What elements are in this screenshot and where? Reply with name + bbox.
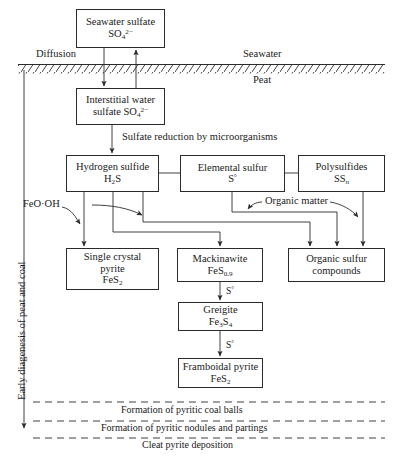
box-elemental-sulfur: Elemental sulfur S° (180, 155, 285, 192)
box-polysulfides-formula: SSn (334, 173, 349, 186)
box-mackinawite: Mackinawite FeS0.9 (177, 248, 263, 282)
arrow-organic-matter-right (330, 202, 358, 217)
box-elemental-sulfur-formula: S° (228, 173, 237, 185)
box-framboidal-pyrite: Framboidal pyrite FeS2 (178, 358, 263, 388)
box-interstitial-sulfate-line1: Interstitial water (86, 94, 155, 106)
label-sulfate-reduction: Sulfate reduction by microorganisms (122, 131, 277, 142)
box-seawater-sulfate: Seawater sulfate SO42− (76, 9, 165, 48)
label-sulfur-step-mackinawite: S° (226, 285, 234, 296)
arrow-h2s-to-mackinawite (113, 192, 220, 246)
box-hydrogen-sulfide-line1: Hydrogen sulfide (76, 161, 149, 173)
label-coal-balls: Formation of pyritic coal balls (118, 404, 246, 415)
box-single-crystal-pyrite: Single crystal pyrite FeS2 (66, 248, 159, 290)
box-hydrogen-sulfide: Hydrogen sulfide H2S (66, 155, 159, 192)
arrow-feooh-to-mackinawite-path (92, 205, 142, 215)
connector-layer (0, 0, 397, 457)
box-single-crystal-pyrite-line2: pyrite (100, 263, 125, 275)
box-framboidal-pyrite-formula: FeS2 (211, 373, 231, 386)
box-mackinawite-formula: FeS0.9 (207, 265, 232, 278)
label-iron-oxyhydroxide: FeO·OH (23, 198, 60, 209)
box-interstitial-sulfate-formula: sulfate SO42− (93, 106, 148, 119)
arrow-organic-matter-left (248, 202, 262, 209)
box-organic-sulfur-compounds: Organic sulfur compounds (288, 248, 385, 282)
box-single-crystal-pyrite-formula: FeS2 (103, 274, 123, 287)
label-sulfur-step-greigite: S° (226, 339, 234, 350)
box-mackinawite-line1: Mackinawite (193, 253, 248, 265)
box-polysulfides: Polysulfides SSn (298, 155, 385, 192)
label-organic-matter: Organic matter (264, 195, 329, 206)
box-organic-sulfur-line1: Organic sulfur (306, 253, 367, 265)
box-single-crystal-pyrite-line1: Single crystal (84, 251, 141, 263)
label-cleat: Cleat pyrite deposition (139, 439, 236, 450)
label-diagenesis-axis: Early diagenesis of peat and coal (16, 262, 27, 400)
box-framboidal-pyrite-line1: Framboidal pyrite (183, 361, 259, 373)
box-greigite-formula: Fe3S4 (209, 316, 232, 329)
box-greigite-line1: Greigite (203, 304, 237, 316)
box-elemental-sulfur-line1: Elemental sulfur (198, 162, 268, 174)
label-nodules: Formation of pyritic nodules and parting… (98, 422, 270, 433)
label-peat: Peat (253, 74, 271, 85)
seabed-horizon (18, 65, 385, 74)
box-seawater-sulfate-line1: Seawater sulfate (86, 16, 155, 28)
label-diffusion: Diffusion (36, 48, 76, 59)
box-hydrogen-sulfide-formula: H2S (104, 173, 121, 186)
box-organic-sulfur-line2: compounds (312, 265, 360, 277)
diagram-canvas: Seawater sulfate SO42− Interstitial wate… (0, 0, 397, 457)
arrow-feooh-to-single-crystal (62, 207, 80, 224)
box-interstitial-sulfate: Interstitial water sulfate SO42− (76, 88, 165, 125)
label-seawater: Seawater (243, 48, 281, 59)
box-seawater-sulfate-formula: SO42− (108, 28, 133, 41)
box-polysulfides-line1: Polysulfides (316, 161, 368, 173)
box-greigite: Greigite Fe3S4 (178, 302, 263, 331)
